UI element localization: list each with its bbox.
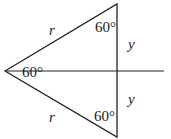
label-side-top-r: r: [49, 22, 55, 38]
label-angle-top: 60°: [95, 19, 116, 35]
label-side-bottom-r: r: [49, 109, 55, 125]
label-segment-lower-y: y: [126, 91, 135, 107]
label-segment-upper-y: y: [126, 36, 135, 52]
triangle-diagram: r r 60° 60° 60° y y: [0, 0, 171, 139]
label-angle-left: 60°: [22, 64, 43, 80]
label-angle-bottom: 60°: [94, 108, 115, 124]
diagram-svg: r r 60° 60° 60° y y: [0, 0, 171, 139]
